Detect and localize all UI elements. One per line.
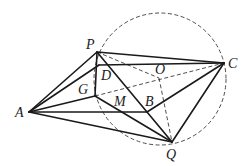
label-point-c: C xyxy=(228,56,238,71)
label-point-a: A xyxy=(14,105,24,120)
label-point-b: B xyxy=(145,94,154,109)
label-point-o: O xyxy=(155,62,165,77)
label-point-p: P xyxy=(85,37,95,52)
label-point-d: D xyxy=(100,68,111,83)
segment-ad xyxy=(29,65,99,112)
solid-lines xyxy=(29,52,224,142)
label-point-q: Q xyxy=(166,147,176,162)
geometry-diagram: PCAQDGOBM xyxy=(0,0,249,166)
dashed-segment-oq xyxy=(159,78,172,142)
segment-cq xyxy=(172,63,224,142)
label-point-g: G xyxy=(78,82,88,97)
label-point-m: M xyxy=(113,94,127,109)
segment-pg xyxy=(95,52,97,96)
